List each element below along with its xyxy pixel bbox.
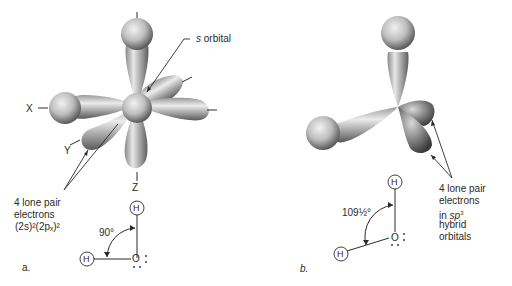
atom-h-left-b: H [337,248,344,260]
orbital-sphere-top [121,18,153,50]
lone-pair-label-b-line5: orbitals [439,231,471,243]
bond-o-h-angled-b [347,238,389,251]
lone-pair-label-b-line2: electrons [439,195,480,207]
atom-h-top-b: H [391,176,398,188]
orbital-sphere-left [49,92,81,124]
axis-y-label: Y [64,145,71,157]
atom-o-b: O [391,232,399,244]
atom-o-a: O [132,253,140,265]
sp3-lobe-top [387,52,408,107]
s-orbital-sphere [122,93,152,123]
atom-h-top-a: H [133,202,140,214]
electron-configuration-a: (2s)²(2pₓ)² [15,221,60,233]
panel-b-orbitals [306,16,452,178]
bond-angle-109-label: 109½° [342,207,371,219]
lone-pair-label-a-line2: electrons [14,209,55,221]
panel-a-orbitals [38,12,217,190]
lone-pair-label-a-line1: 4 lone pair [14,197,61,209]
axis-x-label: X [26,103,33,115]
sp3-lobe-left [330,107,398,142]
panel-b-label: b. [300,263,308,275]
lone-pair-label-b-line1: 4 lone pair [439,183,486,195]
axis-z-label: Z [132,182,138,194]
sp3-sphere-left [306,116,340,150]
lone-pair-pointer-b1 [432,120,452,178]
atom-h-left-a: H [83,253,90,265]
panel-a-label: a. [22,262,30,274]
s-orbital-label: s orbital [196,33,231,45]
lone-pair-label-b-line4: hybrid [439,219,466,231]
orbital-diagram [0,0,512,286]
bond-angle-90-label: 90° [99,227,114,239]
sp3-sphere-top [381,16,415,50]
